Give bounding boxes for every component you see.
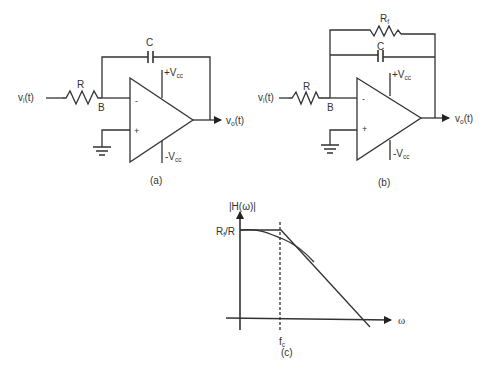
panel-c-frequency-response: |H(ω)| ω Rf/R fc (c) (216, 201, 405, 358)
x-axis (226, 318, 391, 320)
ground-wire (330, 130, 357, 145)
figure-canvas: vi(t) R B C - + +Vcc -Vcc vo(t) (a) vi(t… (0, 0, 493, 372)
resistor-r (62, 91, 102, 104)
noninv-input-sign: + (362, 124, 367, 134)
input-label: vi(t) (18, 92, 34, 104)
response-curve (240, 230, 314, 262)
vminus-label: -Vcc (165, 151, 182, 163)
panel-b-caption: (b) (378, 177, 390, 188)
inv-input-sign: - (135, 96, 138, 106)
panel-b-lossy-integrator: vi(t) R B Rf C - + +Vcc -Vcc vo(t) (b) (258, 13, 473, 188)
opamp-triangle (357, 78, 421, 160)
capacitor-c (148, 51, 153, 63)
ground-wire (102, 130, 130, 147)
inv-input-sign: - (362, 94, 365, 104)
vplus-label: +Vcc (164, 67, 184, 79)
vplus-label: +Vcc (392, 69, 412, 81)
resistor-r-label: R (303, 81, 310, 92)
node-b-label: B (327, 102, 334, 113)
node-b-label: B (98, 102, 105, 113)
panel-c-caption: (c) (281, 347, 293, 358)
panel-a-integrator: vi(t) R B C - + +Vcc -Vcc vo(t) (a) (18, 37, 244, 186)
noninv-input-sign: + (134, 126, 139, 136)
resistor-r (289, 92, 330, 104)
capacitor-c-label: C (377, 41, 384, 52)
feedback-wire (102, 57, 210, 120)
resistor-rf (367, 26, 401, 36)
capacitor-c-label: C (146, 37, 153, 48)
ground-icon (93, 147, 111, 155)
output-label: vo(t) (455, 113, 473, 125)
vminus-label: -Vcc (393, 148, 410, 160)
y-axis-label: |H(ω)| (229, 201, 256, 212)
ground-icon (321, 145, 339, 153)
panel-a-caption: (a) (150, 175, 162, 186)
x-axis-label: ω (398, 314, 405, 326)
input-label: vi(t) (258, 92, 274, 104)
resistor-rf-label: Rf (380, 13, 389, 25)
gain-level-label: Rf/R (216, 226, 235, 238)
asymptote-line (240, 230, 370, 327)
output-label: vo(t) (226, 115, 244, 127)
resistor-r-label: R (77, 79, 84, 90)
